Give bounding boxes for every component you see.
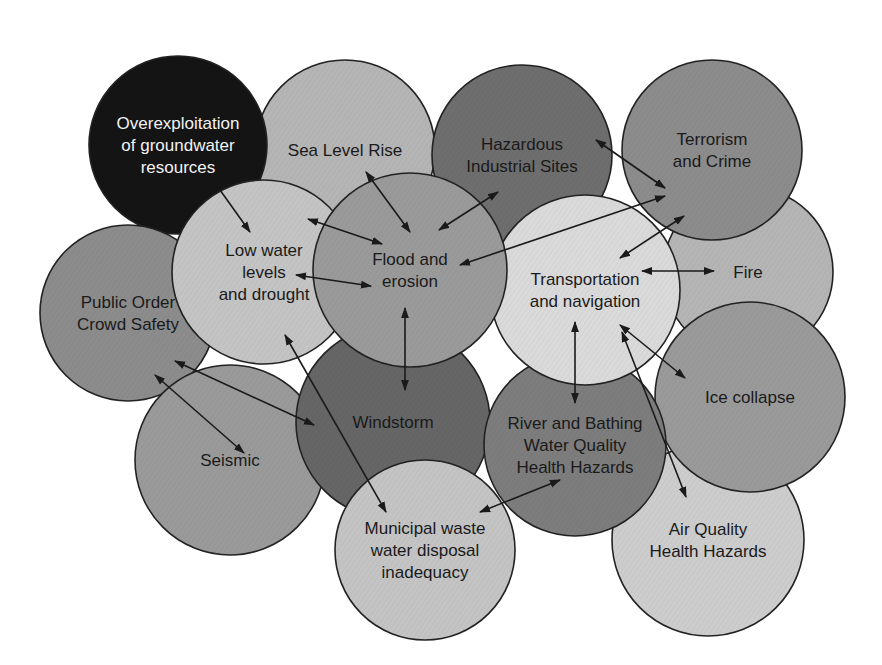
label-line: Terrorism	[677, 130, 748, 149]
label-line: Seismic	[200, 451, 260, 470]
label-line: inadequacy	[382, 563, 469, 582]
label-line: Transportation	[531, 270, 640, 289]
label-line: Industrial Sites	[466, 157, 578, 176]
label-river-and-bathing: River and BathingWater QualityHealth Haz…	[507, 414, 642, 477]
texture-transportation-and-navigation	[491, 196, 679, 384]
label-line: Water Quality	[524, 436, 627, 455]
label-line: water disposal	[370, 541, 480, 560]
hazards-diagram: Overexploitationof groundwaterresourcesS…	[0, 0, 882, 665]
label-line: Overexploitation	[117, 114, 240, 133]
label-seismic: Seismic	[200, 451, 260, 470]
label-line: River and Bathing	[507, 414, 642, 433]
label-municipal-waste-water: Municipal wastewater disposalinadequacy	[365, 519, 486, 582]
label-ice-collapse: Ice collapse	[705, 388, 795, 407]
texture-flood-and-erosion	[314, 174, 506, 366]
label-line: Health Hazards	[649, 542, 766, 561]
label-line: Low water	[225, 241, 303, 260]
label-line: Public Order	[81, 293, 176, 312]
label-line: Windstorm	[352, 413, 433, 432]
label-line: Ice collapse	[705, 388, 795, 407]
label-line: Health Hazards	[516, 458, 633, 477]
label-line: Flood and	[372, 250, 448, 269]
label-line: Crowd Safety	[77, 315, 180, 334]
label-line: Fire	[733, 263, 762, 282]
label-line: resources	[141, 158, 216, 177]
label-line: and drought	[219, 285, 310, 304]
label-line: and Crime	[673, 152, 751, 171]
label-windstorm: Windstorm	[352, 413, 433, 432]
texture-terrorism-and-crime	[623, 61, 801, 239]
label-line: erosion	[382, 272, 438, 291]
label-line: Sea Level Rise	[288, 141, 402, 160]
label-line: Municipal waste	[365, 519, 486, 538]
node-flood-and-erosion	[313, 173, 507, 367]
label-line: of groundwater	[121, 136, 235, 155]
label-sea-level-rise: Sea Level Rise	[288, 141, 402, 160]
label-line: levels	[242, 263, 285, 282]
node-terrorism-and-crime	[622, 60, 802, 240]
label-line: Air Quality	[669, 520, 748, 539]
label-line: and navigation	[530, 292, 641, 311]
label-line: Hazardous	[481, 135, 563, 154]
label-fire: Fire	[733, 263, 762, 282]
